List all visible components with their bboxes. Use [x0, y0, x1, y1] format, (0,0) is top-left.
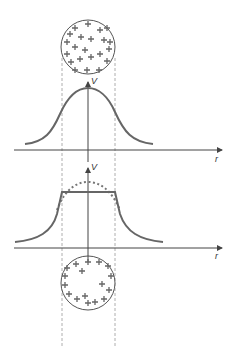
bottom-potential-curve: [15, 192, 163, 242]
bottom-v-axis-label: V: [91, 163, 97, 172]
top-v-axis-label: V: [91, 77, 97, 86]
potential-diagram: V r V r: [0, 0, 240, 363]
top-graph: [14, 82, 222, 162]
top-potential-curve: [25, 88, 153, 144]
diagram-canvas: [0, 0, 240, 363]
bottom-r-axis-label: r: [215, 252, 218, 261]
top-r-axis-label: r: [215, 155, 218, 164]
top-sphere: [61, 20, 115, 74]
bottom-graph: [14, 168, 222, 255]
bottom-sphere: [61, 255, 115, 310]
